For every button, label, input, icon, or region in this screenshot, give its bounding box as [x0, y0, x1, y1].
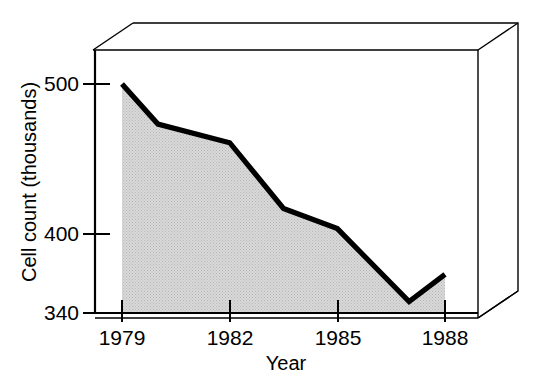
y-tick-label-500: 500	[44, 72, 79, 95]
x-tick-label-1979: 1979	[99, 326, 146, 349]
frame-diagonal-top-left	[93, 23, 133, 50]
x-tick-label-1988: 1988	[422, 326, 469, 349]
y-tick-label-400: 400	[44, 222, 79, 245]
chart-figure: 500 400 340 1979 1982 1985 1988 Cell cou…	[0, 0, 554, 373]
frame-diagonal-top-right	[478, 23, 518, 50]
y-axis-title: Cell count (thousands)	[18, 82, 40, 282]
x-tick-label-1985: 1985	[315, 326, 362, 349]
x-axis-title: Year	[266, 352, 307, 373]
frame-diagonal-bottom-right	[478, 291, 518, 318]
y-axis-ticks	[83, 84, 110, 313]
x-tick-label-1982: 1982	[207, 326, 254, 349]
area-fill-texture	[122, 84, 445, 313]
y-tick-label-340: 340	[44, 301, 79, 324]
chart-canvas: 500 400 340 1979 1982 1985 1988 Cell cou…	[0, 0, 554, 373]
